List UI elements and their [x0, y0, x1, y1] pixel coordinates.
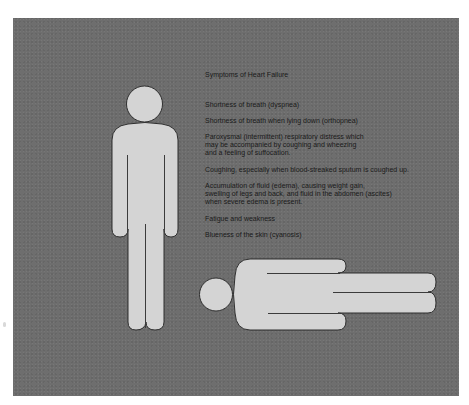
- symptom-line: Shortness of breath when lying down (ort…: [205, 117, 358, 125]
- symptom-item-edema: Accumulation of fluid (edema), causing w…: [205, 182, 392, 206]
- symptom-item-cyanosis: Blueness of the skin (cyanosis): [205, 231, 302, 239]
- symptom-item-paroxysmal: Paroxysmal (intermittent) respiratory di…: [205, 133, 364, 157]
- symptom-line: when severe edema is present.: [205, 198, 392, 206]
- symptom-line: Coughing, especially when blood-streaked…: [205, 166, 409, 174]
- symptom-line: Shortness of breath (dyspnea): [205, 101, 299, 109]
- symptom-line: Blueness of the skin (cyanosis): [205, 231, 302, 239]
- symptom-line: swelling of legs and back, and fluid in …: [205, 190, 392, 198]
- symptom-item-coughing: Coughing, especially when blood-streaked…: [205, 166, 409, 174]
- lying-person-icon: [200, 259, 437, 330]
- symptom-item-dyspnea: Shortness of breath (dyspnea): [205, 101, 299, 109]
- symptom-line: Paroxysmal (intermittent) respiratory di…: [205, 133, 364, 141]
- symptom-line: and a feeling of suffocation.: [205, 149, 364, 157]
- symptom-line: Fatigue and weakness: [205, 215, 275, 223]
- symptom-line: may be accompanied by coughing and wheez…: [205, 141, 364, 149]
- figure-title: Symptoms of Heart Failure: [205, 71, 288, 79]
- symptom-item-orthopnea: Shortness of breath when lying down (ort…: [205, 117, 358, 125]
- symptom-item-fatigue: Fatigue and weakness: [205, 215, 275, 223]
- standing-person-icon: [112, 86, 178, 330]
- symptom-line: Accumulation of fluid (edema), causing w…: [205, 182, 392, 190]
